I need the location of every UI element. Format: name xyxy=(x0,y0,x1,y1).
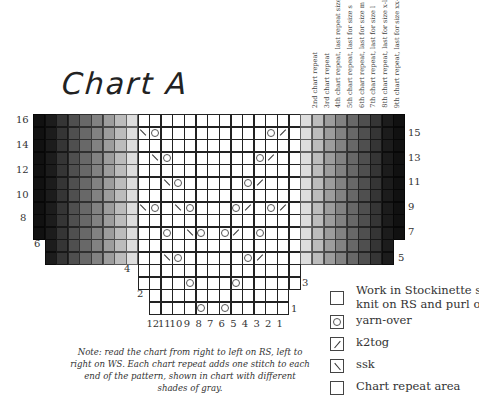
chart-cell xyxy=(184,114,196,127)
chart-cell xyxy=(114,164,126,177)
chart-cell xyxy=(138,177,150,190)
chart-cell xyxy=(196,152,208,165)
chart-cell xyxy=(149,189,161,202)
chart-cell xyxy=(103,239,115,252)
chart-cell xyxy=(289,177,301,190)
chart-cell xyxy=(161,214,173,227)
chart-cell xyxy=(56,252,68,265)
row-number: 4 xyxy=(124,263,130,274)
chart-cell xyxy=(45,114,57,127)
chart-cell xyxy=(300,114,312,127)
chart-cell xyxy=(126,127,138,140)
chart-cell xyxy=(219,177,231,190)
chart-cell xyxy=(312,177,324,190)
chart-cell xyxy=(347,202,359,215)
chart-cell xyxy=(207,239,219,252)
chart-cell xyxy=(103,202,115,215)
chart-cell xyxy=(68,227,80,240)
column-number: 5 xyxy=(228,318,240,329)
chart-cell xyxy=(382,239,394,252)
chart-cell xyxy=(335,152,347,165)
chart-cell xyxy=(277,289,289,302)
chart-cell xyxy=(184,164,196,177)
chart-cell xyxy=(114,214,126,227)
chart-cell xyxy=(56,239,68,252)
yarn-over-icon xyxy=(256,154,264,162)
chart-cell xyxy=(231,239,243,252)
row-number: 9 xyxy=(408,201,414,212)
chart-cell xyxy=(207,139,219,152)
chart-cell xyxy=(172,189,184,202)
column-number: 7 xyxy=(204,318,216,329)
chart-cell xyxy=(289,214,301,227)
chart-cell xyxy=(91,202,103,215)
chart-cell xyxy=(196,202,208,215)
chart-cell xyxy=(184,177,196,190)
chart-cell xyxy=(79,177,91,190)
chart-cell xyxy=(126,152,138,165)
chart-cell xyxy=(231,227,243,240)
chart-cell xyxy=(254,164,266,177)
chart-cell xyxy=(196,264,208,277)
chart-cell xyxy=(68,127,80,140)
row-number: 10 xyxy=(16,189,29,200)
chart-cell xyxy=(45,152,57,165)
chart-cell xyxy=(33,139,45,152)
ssk-backslash-icon xyxy=(330,359,344,373)
chart-cell xyxy=(91,189,103,202)
chart-cell xyxy=(79,189,91,202)
column-number: 12 xyxy=(146,318,158,329)
chart-cell xyxy=(300,139,312,152)
chart-cell xyxy=(347,114,359,127)
chart-cell xyxy=(149,139,161,152)
chart-cell xyxy=(161,189,173,202)
chart-cell xyxy=(277,252,289,265)
chart-cell xyxy=(79,239,91,252)
chart-cell xyxy=(382,252,394,265)
chart-cell xyxy=(103,127,115,140)
chart-cell xyxy=(358,202,370,215)
chart-cell xyxy=(149,277,161,290)
chart-cell xyxy=(138,189,150,202)
chart-cell xyxy=(33,114,45,127)
chart-cell xyxy=(161,277,173,290)
chart-cell xyxy=(172,289,184,302)
chart-cell xyxy=(277,239,289,252)
chart-cell xyxy=(207,127,219,140)
chart-cell xyxy=(265,239,277,252)
chart-cell xyxy=(324,189,336,202)
chart-cell xyxy=(265,277,277,290)
chart-cell xyxy=(382,177,394,190)
chart-cell xyxy=(219,189,231,202)
yarn-over-icon xyxy=(174,254,182,262)
knitting-chart-grid xyxy=(0,0,479,330)
chart-cell xyxy=(219,127,231,140)
chart-cell xyxy=(56,114,68,127)
chart-cell xyxy=(114,239,126,252)
chart-cell xyxy=(45,127,57,140)
chart-cell xyxy=(149,252,161,265)
chart-cell xyxy=(370,189,382,202)
chart-cell xyxy=(324,239,336,252)
chart-cell xyxy=(312,202,324,215)
chart-cell xyxy=(172,152,184,165)
chart-cell xyxy=(347,152,359,165)
chart-cell xyxy=(370,114,382,127)
chart-cell xyxy=(45,139,57,152)
chart-cell xyxy=(382,214,394,227)
chart-cell xyxy=(33,214,45,227)
chart-cell xyxy=(126,139,138,152)
chart-cell xyxy=(161,139,173,152)
chart-cell xyxy=(312,189,324,202)
chart-cell xyxy=(219,202,231,215)
chart-cell xyxy=(172,302,184,315)
chart-cell xyxy=(138,164,150,177)
chart-cell xyxy=(347,227,359,240)
chart-cell xyxy=(103,227,115,240)
yarn-over-icon xyxy=(186,279,194,287)
chart-note: Note: read the chart from right to left … xyxy=(70,346,310,394)
chart-cell xyxy=(324,139,336,152)
chart-cell xyxy=(358,227,370,240)
chart-cell xyxy=(149,227,161,240)
chart-cell xyxy=(56,127,68,140)
